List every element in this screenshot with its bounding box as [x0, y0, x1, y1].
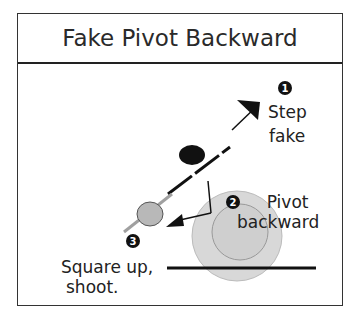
step-fake-arrowhead [237, 100, 260, 120]
play-diagram: 1 2 3 [0, 0, 363, 320]
player-circle [137, 202, 163, 226]
step-2-label-line2: backward [237, 212, 319, 232]
step-2-label-line1: Pivot [242, 192, 319, 212]
step-1-number: 1 [282, 83, 289, 94]
step-3-label: Square up, shoot. [61, 257, 153, 297]
step-2-label: Pivot backward [242, 192, 319, 232]
step-1-label: Step fake [268, 100, 307, 148]
step-3-label-line2: shoot. [61, 277, 153, 297]
step-3-number: 3 [130, 236, 137, 247]
step-3-label-line1: Square up, [61, 257, 153, 277]
step-2-number: 2 [230, 197, 237, 208]
step-1-label-line2: fake [268, 124, 307, 148]
pivot-foot [179, 145, 205, 165]
step-1-label-line1: Step [268, 100, 307, 124]
pivot-arrowhead [166, 214, 184, 227]
